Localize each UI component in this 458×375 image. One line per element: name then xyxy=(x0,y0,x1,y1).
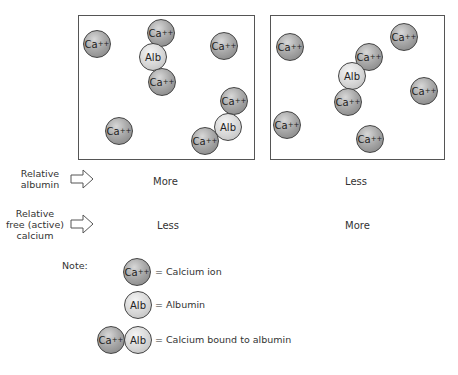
note-title: Note: xyxy=(62,260,88,271)
label-line: calcium xyxy=(0,230,70,241)
label-line: free (active) xyxy=(0,219,70,230)
legend-bound-albumin-symbol: Alb xyxy=(124,326,152,354)
calcium-ion: Ca++ xyxy=(334,88,362,116)
legend-bound-text: = Calcium bound to albumin xyxy=(155,334,291,345)
calcium-right-value: More xyxy=(345,220,370,231)
legend-calcium-ion-symbol: Ca++ xyxy=(123,258,151,286)
symbol-text: Ca xyxy=(99,335,112,346)
albumin-right-value: Less xyxy=(345,176,367,187)
label-line: albumin xyxy=(10,179,70,190)
symbol-text: Alb xyxy=(130,300,146,311)
calcium-ion: Ca++ xyxy=(210,32,238,60)
calcium-ion: Ca++ xyxy=(276,33,304,61)
calcium-ion: Ca++ xyxy=(273,111,301,139)
label-line: Relative xyxy=(0,208,70,219)
albumin-left-value: More xyxy=(153,176,178,187)
legend-bound-calcium-symbol: Ca++ xyxy=(97,326,125,354)
calcium-ion: Ca++ xyxy=(220,87,248,115)
symbol-text: Ca xyxy=(125,267,138,278)
relative-albumin-label: Relative albumin xyxy=(10,168,70,190)
albumin: Alb xyxy=(338,62,366,90)
calcium-ion: Ca++ xyxy=(410,77,438,105)
legend-albumin-symbol: Alb xyxy=(124,291,152,319)
label-line: Relative xyxy=(10,168,70,179)
calcium-ion: Ca++ xyxy=(105,117,133,145)
charge-text: ++ xyxy=(138,268,150,276)
calcium-ion: Ca++ xyxy=(191,127,219,155)
calcium-ion: Ca++ xyxy=(390,23,418,51)
arrow-right-icon xyxy=(70,214,94,234)
albumin: Alb xyxy=(139,43,167,71)
relative-free-calcium-label: Relative free (active) calcium xyxy=(0,208,70,241)
symbol-text: Alb xyxy=(130,335,146,346)
charge-text: ++ xyxy=(112,336,124,344)
calcium-ion: Ca++ xyxy=(148,68,176,96)
calcium-ion: Ca++ xyxy=(83,30,111,58)
legend-albumin-text: = Albumin xyxy=(155,299,205,310)
calcium-left-value: Less xyxy=(157,220,179,231)
legend-calcium-ion-text: = Calcium ion xyxy=(155,266,222,277)
calcium-ion: Ca++ xyxy=(356,125,384,153)
arrow-right-icon xyxy=(70,169,94,189)
